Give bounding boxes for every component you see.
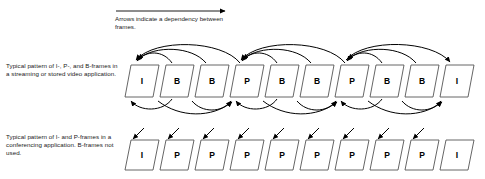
frame-row2-4[interactable]: P bbox=[230, 140, 264, 170]
frame-row2-10[interactable]: I bbox=[440, 140, 474, 170]
frame-label: B bbox=[314, 76, 320, 86]
row-conferencing-arrows bbox=[133, 128, 424, 139]
frame-label: P bbox=[279, 150, 285, 160]
frame-row1-9[interactable]: B bbox=[405, 65, 439, 97]
row-streaming-frames: I B B P B B P bbox=[125, 65, 474, 97]
frame-row2-9[interactable]: P bbox=[405, 140, 439, 170]
frame-row2-1[interactable]: I bbox=[125, 140, 159, 170]
frame-row1-2[interactable]: B bbox=[160, 65, 194, 97]
frame-label: B bbox=[174, 76, 180, 86]
frame-row2-8[interactable]: P bbox=[370, 140, 404, 170]
frame-label: P bbox=[349, 76, 355, 86]
frame-row2-3[interactable]: P bbox=[195, 140, 229, 170]
frame-row2-6[interactable]: P bbox=[300, 140, 334, 170]
frame-row1-4[interactable]: P bbox=[230, 65, 264, 97]
legend-line-1: Arrows indicate a dependency bbox=[115, 15, 198, 22]
frame-label: P bbox=[384, 150, 390, 160]
frame-label: I bbox=[141, 76, 143, 86]
frame-label: P bbox=[419, 150, 425, 160]
frame-label: I bbox=[456, 76, 458, 86]
frame-row1-5[interactable]: B bbox=[265, 65, 299, 97]
frame-label: P bbox=[314, 150, 320, 160]
frame-row1-1[interactable]: I bbox=[125, 65, 159, 97]
frame-label: B bbox=[384, 76, 390, 86]
diagram-canvas: I B B P B B P bbox=[0, 0, 485, 179]
frame-row2-5[interactable]: P bbox=[265, 140, 299, 170]
frame-row1-8[interactable]: B bbox=[370, 65, 404, 97]
row-streaming-arcs-below bbox=[131, 99, 442, 114]
row-streaming-arcs-above bbox=[136, 44, 450, 63]
frame-label: B bbox=[209, 76, 215, 86]
frame-label: B bbox=[279, 76, 285, 86]
caption-conferencing: Typical pattern of I- and P-frames in a … bbox=[6, 133, 118, 158]
frame-label: B bbox=[419, 76, 425, 86]
frame-label: I bbox=[141, 150, 143, 160]
frame-row1-3[interactable]: B bbox=[195, 65, 229, 97]
frame-label: P bbox=[244, 76, 250, 86]
caption-streaming: Typical pattern of I-, P-, and B-frames … bbox=[6, 62, 118, 78]
row-conferencing-frames: I P P P P P P bbox=[125, 140, 474, 170]
frame-row1-6[interactable]: B bbox=[300, 65, 334, 97]
frame-label: P bbox=[244, 150, 250, 160]
frame-label: P bbox=[349, 150, 355, 160]
frame-row1-7[interactable]: P bbox=[335, 65, 369, 97]
frame-row1-10[interactable]: I bbox=[440, 65, 474, 97]
frame-row2-7[interactable]: P bbox=[335, 140, 369, 170]
frame-label: P bbox=[209, 150, 215, 160]
frame-row2-2[interactable]: P bbox=[160, 140, 194, 170]
frame-label: I bbox=[456, 150, 458, 160]
frame-label: P bbox=[174, 150, 180, 160]
legend-caption: Arrows indicate a dependency between fra… bbox=[115, 15, 245, 31]
